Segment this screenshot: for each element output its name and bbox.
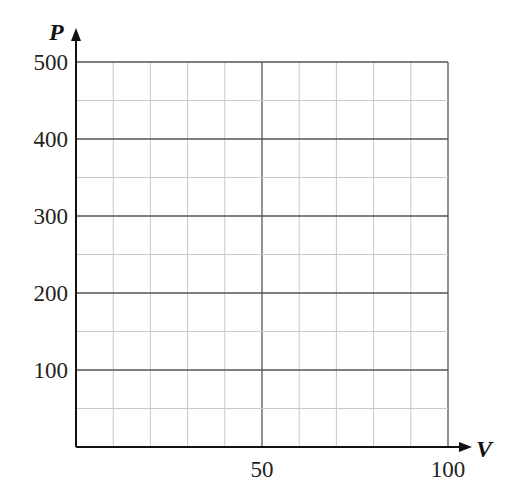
grid [76,62,448,447]
x-axis-arrow-icon [459,442,472,452]
pv-chart: 10020030040050050100 P V [0,0,523,496]
x-axis-label: V [476,436,494,462]
y-tick-label: 500 [34,50,69,75]
y-tick-label: 100 [34,358,69,383]
x-tick-label: 50 [251,457,274,482]
axes [71,28,472,452]
y-axis-arrow-icon [71,28,81,41]
y-axis-label: P [48,19,64,45]
tick-labels: 10020030040050050100 [34,50,466,482]
y-tick-label: 200 [34,281,69,306]
y-tick-label: 300 [34,204,69,229]
y-tick-label: 400 [34,127,69,152]
x-tick-label: 100 [431,457,466,482]
